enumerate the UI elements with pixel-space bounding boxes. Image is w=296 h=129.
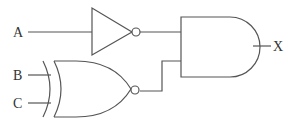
logic-circuit-diagram: A X B C	[0, 0, 296, 129]
not-gate-bubble	[132, 28, 140, 36]
xnor-gate-bubble	[131, 86, 139, 94]
not-gate	[92, 8, 140, 55]
input-c-label: C	[13, 96, 22, 111]
xnor-gate	[43, 61, 139, 117]
output-x-label: X	[273, 39, 283, 54]
wire-xnor-to-and	[140, 61, 181, 91]
not-gate-body	[92, 8, 132, 55]
input-b-label: B	[13, 68, 22, 83]
xnor-gate-extra-arc	[43, 61, 50, 117]
and-gate	[181, 17, 260, 77]
xnor-gate-back-arc	[54, 61, 61, 117]
xnor-gate-body	[54, 61, 131, 117]
and-gate-body	[181, 17, 260, 77]
input-a-label: A	[13, 25, 24, 40]
